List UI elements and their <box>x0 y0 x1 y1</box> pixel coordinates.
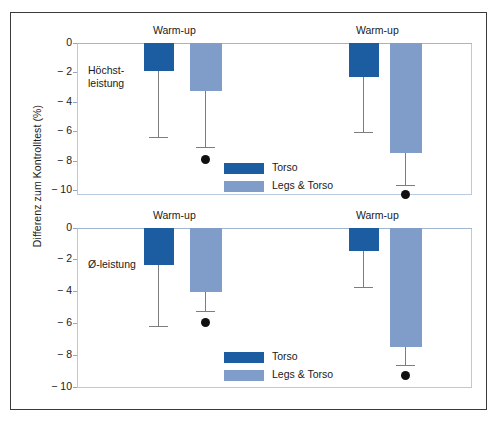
legend-label-torso-top: Torso <box>272 161 298 173</box>
errorbar-top-g1-torso-ext <box>158 71 159 137</box>
legend-swatch-legs-torso-bottom <box>224 370 264 381</box>
condition-label-top-line1: Höchst- <box>88 64 124 76</box>
ytick-mark-m10-bottom <box>73 387 77 388</box>
bar-top-g2-legs-torso <box>390 43 422 153</box>
bar-bottom-g1-legs-torso <box>190 228 222 292</box>
bar-bottom-g2-legs-torso <box>390 228 422 347</box>
condition-label-bottom: Ø-leistung <box>88 258 136 270</box>
ytick-mark-0-bottom <box>73 228 77 229</box>
bar-bottom-g1-torso <box>144 228 174 265</box>
ytick-mark-m6-top <box>73 131 77 132</box>
ytick-mark-m10-top <box>73 190 77 191</box>
group-label-bottom-1: Warm-up <box>153 209 196 221</box>
ytick-label-0-bottom: 0 <box>34 221 72 233</box>
errorbar-top-g1-legs-torso <box>205 91 206 148</box>
bar-top-g1-torso <box>144 43 174 71</box>
errorbar-cap-top-g1-torso <box>149 137 168 138</box>
ytick-mark-m8-bottom <box>73 355 77 356</box>
group-label-top-2: Warm-up <box>356 24 399 36</box>
ytick-label-m8-bottom: − 8 <box>34 348 72 360</box>
bar-top-g2-torso <box>349 43 379 77</box>
legend-swatch-torso-top <box>224 163 264 174</box>
errorbar-cap-bottom-g1-legs-torso <box>196 311 215 312</box>
ytick-label-m2-top: − 2 <box>34 65 72 77</box>
figure-root: Differenz zum Kontrolltest (%) 0 − 2 − 4… <box>0 0 497 422</box>
ytick-label-m6-bottom: − 6 <box>34 316 72 328</box>
ytick-mark-m6-bottom <box>73 323 77 324</box>
significance-dot-bottom-g1-legs-torso <box>201 318 210 327</box>
ytick-label-m10-top: − 10 <box>30 183 72 195</box>
ytick-mark-m8-top <box>73 161 77 162</box>
errorbar-top-g2-torso <box>363 77 364 133</box>
ytick-label-m10-bottom: − 10 <box>30 380 72 392</box>
errorbar-cap-bottom-g2-legs-torso <box>396 365 415 366</box>
errorbar-cap-top-g2-torso <box>354 132 373 133</box>
bar-top-g1-legs-torso <box>190 43 222 91</box>
ytick-mark-m4-top <box>73 102 77 103</box>
condition-label-top-line2: leistung <box>88 77 124 89</box>
ytick-label-m4-top: − 4 <box>34 95 72 107</box>
errorbar-cap-top-g1-legs-torso <box>196 147 215 148</box>
significance-dot-top-g1-legs-torso <box>201 155 210 164</box>
errorbar-bottom-g1-legs-torso <box>205 292 206 312</box>
ytick-mark-m2-bottom <box>73 259 77 260</box>
significance-dot-top-g2-legs-torso <box>401 190 410 199</box>
errorbar-bottom-g2-legs-torso <box>405 347 406 366</box>
legend-label-torso-bottom: Torso <box>272 350 298 362</box>
ytick-label-m2-bottom: − 2 <box>34 252 72 264</box>
errorbar-cap-top-g2-legs-torso <box>396 185 415 186</box>
errorbar-bottom-g1-torso <box>158 265 159 327</box>
ytick-label-m6-top: − 6 <box>34 124 72 136</box>
bar-bottom-g2-torso <box>349 228 379 251</box>
group-label-top-1: Warm-up <box>153 24 196 36</box>
ytick-label-0-top: 0 <box>34 36 72 48</box>
ytick-mark-m2-top <box>73 72 77 73</box>
ytick-label-m8-top: − 8 <box>34 154 72 166</box>
legend-label-legs-torso-bottom: Legs & Torso <box>272 368 333 380</box>
legend-swatch-legs-torso-top <box>224 181 264 192</box>
legend-swatch-torso-bottom <box>224 352 264 363</box>
errorbar-cap-bottom-g2-torso <box>354 287 373 288</box>
ytick-label-m4-bottom: − 4 <box>34 284 72 296</box>
ytick-mark-m4-bottom <box>73 291 77 292</box>
legend-label-legs-torso-top: Legs & Torso <box>272 179 333 191</box>
group-label-bottom-2: Warm-up <box>356 209 399 221</box>
errorbar-top-g2-legs-torso <box>405 153 406 186</box>
errorbar-bottom-g2-torso <box>363 251 364 288</box>
significance-dot-bottom-g2-legs-torso <box>401 371 410 380</box>
errorbar-cap-bottom-g1-torso <box>149 326 168 327</box>
ytick-mark-0-top <box>73 43 77 44</box>
